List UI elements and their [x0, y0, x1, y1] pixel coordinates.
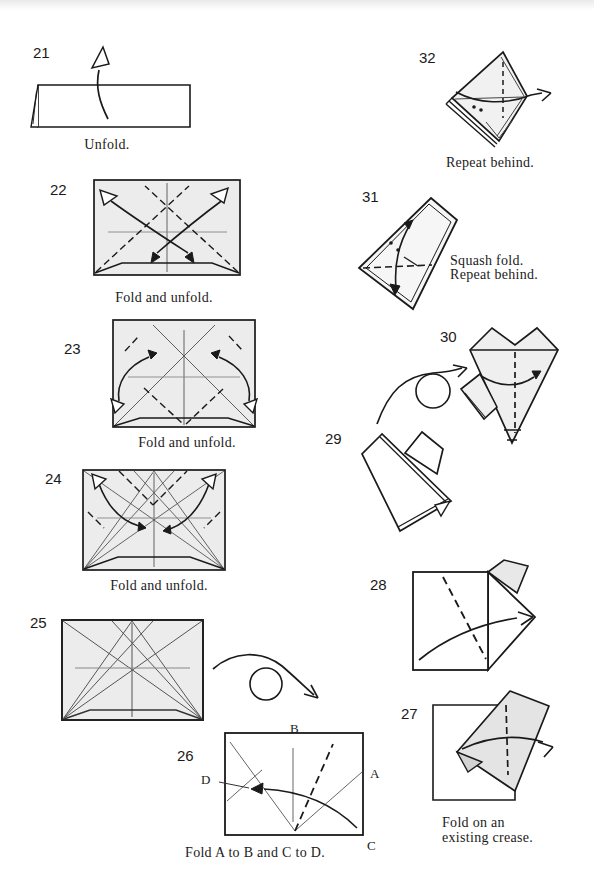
step-29-art [362, 432, 451, 531]
step-30-art [461, 328, 558, 443]
step-29-number: 29 [325, 430, 342, 447]
step-31-art [359, 198, 457, 309]
step-26-number: 26 [177, 747, 194, 764]
step-21-caption: Unfold. [84, 137, 129, 153]
step-27-caption-line2: existing crease. [442, 830, 533, 846]
step-21-art [31, 47, 190, 127]
point-label-d: D [201, 772, 210, 788]
step-22-caption: Fold and unfold. [115, 290, 213, 306]
step-32-number: 32 [419, 49, 436, 66]
step-28-art [413, 560, 535, 670]
step-24-number: 24 [45, 470, 62, 487]
step-27-art [433, 691, 553, 800]
step-21-number: 21 [33, 44, 50, 61]
step-26-art [219, 733, 363, 835]
step-25-art [62, 620, 318, 720]
point-label-c: C [367, 838, 376, 854]
turn-over-symbol [213, 655, 318, 700]
step-25-number: 25 [30, 614, 47, 631]
point-label-b: B [290, 721, 299, 737]
step-22-art [94, 180, 240, 275]
step-23-caption: Fold and unfold. [138, 435, 236, 451]
step-26-caption: Fold A to B and C to D. [185, 845, 325, 861]
step-28-number: 28 [370, 576, 387, 593]
turn-over-symbol-29-30 [377, 365, 467, 424]
origami-instruction-page: 21 22 23 24 25 26 27 28 29 30 31 32 Unfo… [0, 0, 594, 890]
step-27-number: 27 [401, 705, 418, 722]
step-31-number: 31 [362, 188, 379, 205]
step-22-number: 22 [50, 181, 67, 198]
diagram-artwork [0, 0, 594, 890]
point-label-a: A [370, 766, 379, 782]
step-23-art [111, 320, 257, 427]
step-24-caption: Fold and unfold. [110, 578, 208, 594]
step-31-caption-line2: Repeat behind. [450, 267, 538, 283]
step-32-art [446, 52, 551, 147]
step-27-caption-line1: Fold on an [442, 815, 505, 831]
step-23-number: 23 [64, 340, 81, 357]
step-32-caption: Repeat behind. [446, 155, 534, 171]
step-30-number: 30 [440, 328, 457, 345]
step-24-art [83, 470, 225, 570]
